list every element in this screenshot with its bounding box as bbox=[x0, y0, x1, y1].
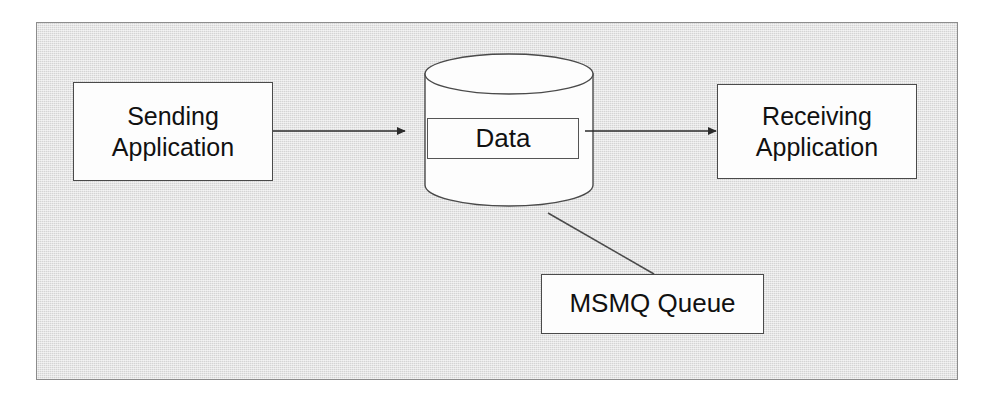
node-sending-application-label-line2: Application bbox=[112, 133, 234, 161]
node-receiving-application-label: Receiving Application bbox=[756, 101, 878, 162]
node-queue-store-data-label: Data bbox=[476, 123, 531, 154]
node-queue-store-data-box: Data bbox=[427, 118, 579, 159]
node-msmq-queue-callout-label: MSMQ Queue bbox=[569, 288, 735, 320]
diagram-root: Sending Application Data Receiving Appli… bbox=[0, 0, 994, 403]
node-sending-application-label: Sending Application bbox=[112, 101, 234, 162]
node-receiving-application-label-line2: Application bbox=[756, 133, 878, 161]
node-sending-application[interactable]: Sending Application bbox=[73, 82, 273, 181]
node-receiving-application-label-line1: Receiving bbox=[762, 102, 872, 130]
node-msmq-queue-callout[interactable]: MSMQ Queue bbox=[541, 274, 764, 334]
node-sending-application-label-line1: Sending bbox=[127, 102, 219, 130]
node-receiving-application[interactable]: Receiving Application bbox=[717, 84, 917, 179]
